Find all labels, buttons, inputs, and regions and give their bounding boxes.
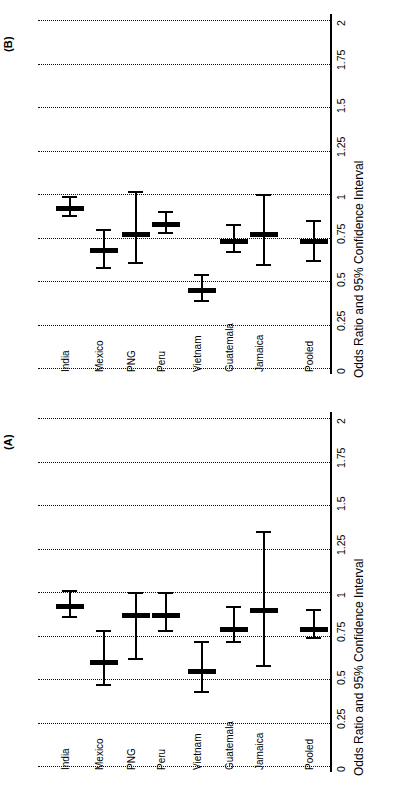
panel-b-plot-area: 00.250.50.7511.251.51.752IndiaMexicoPNGP… [38,20,330,368]
ci-cap-lower-vietnam [194,691,209,693]
ci-cap-upper-vietnam [194,274,209,276]
gridline [38,636,330,637]
category-label-guatemala: Guatemala [224,721,235,770]
axis-tick-label: 1.75 [334,428,348,468]
ci-cap-upper-jamaica [256,531,271,533]
axis-tick-label: 1.25 [334,117,348,157]
ci-cap-upper-vietnam [194,641,209,643]
ci-cap-upper-mexico [96,229,111,231]
ci-whisker-peru [165,592,167,630]
ci-cap-lower-vietnam [194,300,209,302]
point-estimate-guatemala [220,239,248,244]
ci-cap-lower-guatemala [226,641,241,643]
axis-tick-label: 0.75 [334,602,348,642]
ci-whisker-pooled [313,609,315,637]
panel-b-axis-spine [330,14,332,374]
gridline [38,368,330,369]
category-label-pooled: Pooled [304,739,315,770]
ci-cap-lower-pooled [306,260,321,262]
point-estimate-pooled [300,627,328,632]
ci-cap-upper-guatemala [226,224,241,226]
ci-whisker-png [135,592,137,658]
panel-a-axis-spine [330,412,332,772]
point-estimate-guatemala [220,627,248,632]
ci-cap-lower-jamaica [256,264,271,266]
category-label-mexico: Mexico [94,738,105,770]
point-estimate-mexico [90,660,118,665]
gridline [38,238,330,239]
gridline [38,418,330,419]
category-label-jamaica: Jamaica [254,335,265,372]
category-label-peru: Peru [156,351,167,372]
ci-cap-upper-guatemala [226,606,241,608]
point-estimate-png [122,613,150,618]
ci-cap-upper-pooled [306,609,321,611]
point-estimate-jamaica [250,608,278,613]
gridline [38,723,330,724]
axis-tick-label: 1 [334,558,348,598]
panel-a-letter: (A) [2,410,32,450]
point-estimate-pooled [300,239,328,244]
category-label-pooled: Pooled [304,341,315,372]
category-label-png: PNG [126,350,137,372]
panel-b-axis-title: Odds Ratio and 95% Confidence Interval [352,161,366,378]
panel-a: (A) 00.250.50.7511.251.51.752IndiaMexico… [0,404,410,804]
axis-tick-label: 0.5 [334,645,348,685]
gridline [38,281,330,282]
axis-tick-label: 0.25 [334,291,348,331]
category-label-india: India [60,748,71,770]
ci-cap-lower-india [62,616,77,618]
ci-cap-lower-peru [158,630,173,632]
point-estimate-jamaica [250,232,278,237]
ci-whisker-vietnam [201,641,203,691]
point-estimate-peru [152,613,180,618]
gridline [38,549,330,550]
category-label-india: India [60,350,71,372]
axis-tick-label: 0.25 [334,689,348,729]
axis-tick-label: 2 [334,0,348,26]
ci-cap-lower-guatemala [226,251,241,253]
point-estimate-mexico [90,248,118,253]
category-label-jamaica: Jamaica [254,733,265,770]
gridline [38,462,330,463]
ci-cap-lower-mexico [96,684,111,686]
gridline [38,592,330,593]
gridline [38,64,330,65]
axis-tick-label: 0.5 [334,247,348,287]
ci-cap-upper-png [128,592,143,594]
ci-cap-lower-pooled [306,637,321,639]
ci-cap-upper-pooled [306,220,321,222]
gridline [38,766,330,767]
ci-whisker-png [135,191,137,262]
category-label-vietnam: Vietnam [192,335,203,372]
ci-cap-lower-mexico [96,267,111,269]
ci-cap-upper-india [62,590,77,592]
gridline [38,325,330,326]
ci-cap-lower-india [62,215,77,217]
axis-tick-label: 1.5 [334,73,348,113]
ci-cap-lower-png [128,262,143,264]
gridline [38,505,330,506]
ci-cap-upper-jamaica [256,194,271,196]
panel-b-letter: (B) [2,12,32,52]
category-label-png: PNG [126,748,137,770]
gridline [38,194,330,195]
point-estimate-peru [152,222,180,227]
point-estimate-vietnam [188,669,216,674]
category-label-guatemala: Guatemala [224,323,235,372]
point-estimate-png [122,232,150,237]
category-label-peru: Peru [156,749,167,770]
axis-tick-label: 0.75 [334,204,348,244]
panel-a-plot-area: 00.250.50.7511.251.51.752IndiaMexicoPNGP… [38,418,330,766]
axis-tick-label: 1.5 [334,471,348,511]
ci-whisker-mexico [103,630,105,684]
ci-cap-upper-peru [158,211,173,213]
ci-cap-lower-jamaica [256,665,271,667]
axis-tick-label: 0 [334,334,348,374]
ci-cap-upper-peru [158,592,173,594]
panel-a-axis-title: Odds Ratio and 95% Confidence Interval [352,559,366,776]
panel-b: (B) 00.250.50.7511.251.51.752IndiaMexico… [0,6,410,406]
ci-whisker-guatemala [233,224,235,252]
axis-tick-label: 1.75 [334,30,348,70]
point-estimate-vietnam [188,288,216,293]
